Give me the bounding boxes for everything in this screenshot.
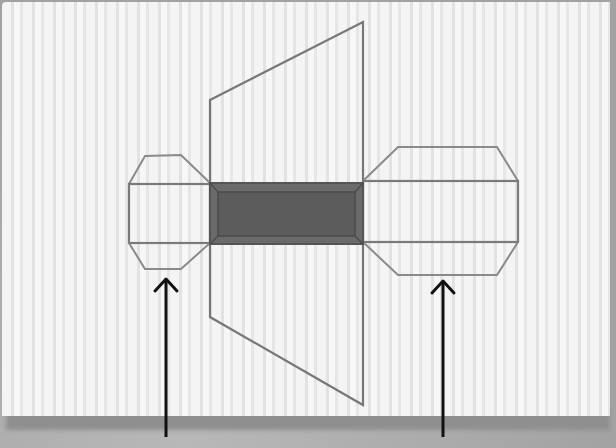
right-cap-face bbox=[363, 181, 518, 242]
left-cap-bottom-flap bbox=[129, 243, 210, 269]
left-cap-face bbox=[129, 184, 210, 243]
right-cap-top-flap bbox=[363, 147, 518, 181]
dark-central-face bbox=[210, 183, 363, 244]
arrows bbox=[155, 279, 454, 437]
right-cap-bottom-flap bbox=[363, 242, 518, 275]
dark-face-inner bbox=[218, 192, 355, 236]
left-end-cap bbox=[129, 155, 210, 269]
left-cap-top-flap bbox=[129, 155, 210, 184]
right-arrow-icon bbox=[432, 281, 454, 437]
left-arrow-icon bbox=[155, 279, 177, 437]
right-end-cap bbox=[363, 147, 518, 275]
net-diagram bbox=[0, 0, 616, 448]
